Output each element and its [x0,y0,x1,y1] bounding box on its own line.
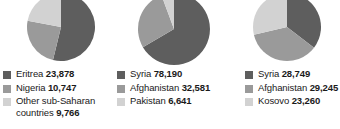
legend-swatch [245,98,253,106]
chart-panel-2: Syria 28,749Afghanistan 29,245Kosovo 23,… [225,0,340,129]
legend-label: Eritrea 23,878 [16,68,74,80]
legend-swatch [3,98,11,106]
pie-chart-0 [26,0,96,62]
legend-item: Other sub-Saharan countries 9,766 [3,95,115,118]
legend-label: Afghanistan 32,581 [130,82,210,94]
legend-item: Syria 78,190 [117,68,225,80]
legend-label: Kosovo 23,260 [258,95,320,107]
pie-svg-1 [137,0,211,66]
legend-swatch [245,71,253,79]
legend-swatch [117,71,125,79]
legend-item: Nigeria 10,747 [3,82,115,94]
legend-label: Nigeria 10,747 [16,82,76,94]
legend-swatch [3,85,11,93]
legend-item: Kosovo 23,260 [245,95,340,107]
legend-label: Syria 28,749 [258,68,310,80]
legend-value: 9,766 [56,107,79,118]
legend-item: Afghanistan 32,581 [117,82,225,94]
legend-value: 10,747 [48,82,76,93]
legend-label: Other sub-Saharan countries 9,766 [16,95,95,118]
pie-chart-2 [252,0,322,62]
legend-swatch [117,98,125,106]
legend-label: Pakistan 6,641 [130,95,191,107]
pie-svg-0 [26,0,96,62]
legend-swatch [117,85,125,93]
legend-value: 23,260 [292,95,320,106]
legend-label: Afghanistan 29,245 [258,82,338,94]
legend-item: Afghanistan 29,245 [245,82,340,94]
legend-value: 29,245 [310,82,338,93]
legend-value: 78,190 [154,68,182,79]
chart-panel-0: Eritrea 23,878Nigeria 10,747Other sub-Sa… [0,0,115,129]
legend-value: 28,749 [282,68,310,79]
legend-value: 32,581 [182,82,210,93]
legend-label: Syria 78,190 [130,68,182,80]
legend-1: Syria 78,190Afghanistan 32,581Pakistan 6… [117,68,225,109]
chart-panel-1: Syria 78,190Afghanistan 32,581Pakistan 6… [115,0,225,129]
legend-swatch [245,85,253,93]
legend-0: Eritrea 23,878Nigeria 10,747Other sub-Sa… [3,68,115,120]
pie-svg-2 [252,0,322,62]
legend-2: Syria 28,749Afghanistan 29,245Kosovo 23,… [245,68,340,109]
legend-value: 23,878 [46,68,74,79]
legend-item: Eritrea 23,878 [3,68,115,80]
legend-swatch [3,71,11,79]
legend-item: Syria 28,749 [245,68,340,80]
legend-value: 6,641 [168,95,191,106]
pie-chart-1 [137,0,211,66]
legend-item: Pakistan 6,641 [117,95,225,107]
pie-chart-figure: Eritrea 23,878Nigeria 10,747Other sub-Sa… [0,0,340,129]
